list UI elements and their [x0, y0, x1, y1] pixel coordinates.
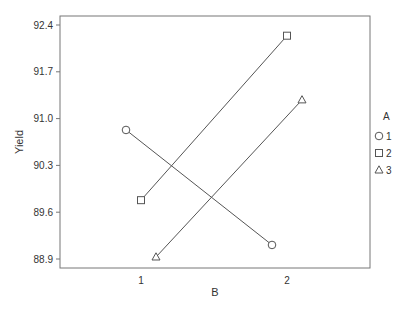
y-tick-label: 91.7: [34, 66, 54, 77]
y-axis: 92.491.791.090.389.688.9: [34, 20, 60, 265]
x-axis: 12: [138, 275, 290, 286]
interaction-plot: 92.491.791.090.389.688.9 12 B Yield A 12…: [0, 0, 407, 311]
series-line: [141, 36, 287, 200]
series-line: [156, 100, 302, 257]
y-tick-label: 89.6: [34, 207, 54, 218]
legend-title: A: [383, 111, 390, 122]
series-2: [138, 32, 291, 203]
plot-area: [60, 16, 370, 268]
series-line: [126, 130, 272, 245]
y-tick-label: 91.0: [34, 113, 54, 124]
y-tick-label: 90.3: [34, 160, 54, 171]
legend-label: 1: [386, 131, 392, 142]
series-1: [122, 126, 276, 249]
series-3: [152, 96, 306, 260]
circle-marker-icon: [268, 241, 276, 249]
legend-label: 3: [386, 165, 392, 176]
x-tick-label: 1: [138, 275, 144, 286]
legend: A 123: [375, 111, 392, 176]
square-marker-icon: [138, 197, 145, 204]
circle-marker-icon: [122, 126, 130, 134]
y-axis-title: Yield: [13, 130, 25, 154]
series-group: [122, 32, 306, 260]
x-axis-title: B: [211, 286, 218, 298]
legend-square-icon: [376, 150, 383, 157]
x-tick-label: 2: [284, 275, 290, 286]
legend-circle-icon: [375, 132, 383, 140]
y-tick-label: 88.9: [34, 254, 54, 265]
legend-label: 2: [386, 148, 392, 159]
square-marker-icon: [284, 32, 291, 39]
legend-triangle-icon: [375, 166, 383, 173]
y-tick-label: 92.4: [34, 20, 54, 31]
triangle-marker-icon: [298, 96, 306, 103]
